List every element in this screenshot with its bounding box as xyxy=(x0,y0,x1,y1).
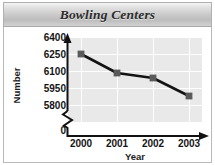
y-axis xyxy=(63,33,72,137)
x-tick-label: 2002 xyxy=(133,138,173,149)
chart-screenshot: Bowling Centers Number 6400 6250 6100 59… xyxy=(0,0,215,165)
x-tick-label: 2003 xyxy=(169,138,209,149)
data-point-marker xyxy=(150,75,157,82)
chart-plot-region: Number 6400 6250 6100 5950 5800 0 xyxy=(4,28,211,162)
data-point-marker xyxy=(114,70,121,77)
y-axis-break-symbol xyxy=(63,111,72,137)
x-axis-title: Year xyxy=(68,151,202,162)
x-tick-label: 2000 xyxy=(61,138,101,149)
x-tick-label: 2001 xyxy=(97,138,137,149)
data-point-marker xyxy=(186,93,193,100)
data-line xyxy=(81,54,189,96)
data-point-marker xyxy=(78,51,85,58)
chart-title-bar: Bowling Centers xyxy=(3,2,212,27)
chart-title: Bowling Centers xyxy=(60,7,156,23)
x-axis-tick-labels: 2000 2001 2002 2003 xyxy=(68,138,208,152)
